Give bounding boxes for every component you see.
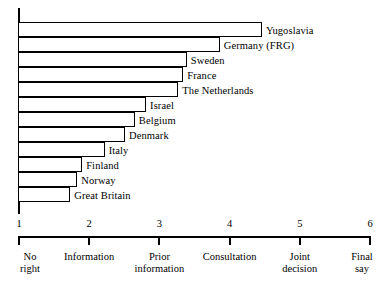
x-axis-caption-line1: Consultation bbox=[203, 251, 257, 262]
bar-row: Finland bbox=[19, 157, 242, 172]
bar-label: France bbox=[183, 69, 216, 80]
plot-area: Yugoslavia Germany (FRG) Sweden France T… bbox=[0, 0, 387, 215]
bar-label: Israel bbox=[146, 99, 174, 110]
x-axis-caption-line1: Prior bbox=[149, 251, 170, 262]
bar-row: Italy bbox=[19, 142, 265, 157]
x-axis-caption-line2: information bbox=[135, 263, 185, 275]
bar-row: Sweden bbox=[19, 52, 347, 67]
x-axis-caption: Consultation bbox=[203, 251, 257, 263]
bar-rect bbox=[19, 157, 82, 172]
bar-rect bbox=[19, 142, 105, 157]
x-tick bbox=[158, 236, 160, 245]
x-axis-caption-line2: say bbox=[351, 263, 373, 275]
x-tick-label: 2 bbox=[87, 218, 92, 229]
x-tick bbox=[299, 236, 301, 245]
x-axis-caption-line1: Final bbox=[351, 251, 373, 262]
bar-chart: Yugoslavia Germany (FRG) Sweden France T… bbox=[0, 0, 387, 286]
x-axis-caption-line2: decision bbox=[282, 263, 317, 275]
bar-label: Belgium bbox=[135, 114, 176, 125]
x-axis-caption-line1: Joint bbox=[290, 251, 310, 262]
bar-rect bbox=[19, 97, 146, 112]
x-axis-caption: Joint decision bbox=[282, 251, 317, 275]
bar-row: France bbox=[19, 67, 343, 82]
bar-rect bbox=[19, 172, 77, 187]
bar-rect bbox=[19, 37, 220, 52]
bar-label: Finland bbox=[82, 159, 119, 170]
bar-row: Belgium bbox=[19, 112, 295, 127]
x-tick-label: 1 bbox=[16, 218, 21, 229]
bar-label: Great Britain bbox=[70, 189, 130, 200]
x-tick bbox=[369, 236, 371, 245]
bar-label: Germany (FRG) bbox=[220, 39, 294, 50]
x-axis-caption: Information bbox=[64, 251, 114, 263]
x-axis-caption-line1: No bbox=[24, 251, 37, 262]
bar-label: The Netherlands bbox=[178, 84, 253, 95]
x-axis-caption: Final say bbox=[351, 251, 373, 275]
bar-label: Denmark bbox=[125, 129, 169, 140]
x-axis-caption-line1: Information bbox=[64, 251, 114, 262]
bar-label: Sweden bbox=[187, 54, 225, 65]
bar-row: Yugoslavia bbox=[19, 22, 387, 37]
bar-label: Italy bbox=[105, 144, 129, 155]
x-tick bbox=[229, 236, 231, 245]
bar-rect bbox=[19, 112, 135, 127]
bar-row: Norway bbox=[19, 172, 237, 187]
bar-row: The Netherlands bbox=[19, 82, 338, 97]
x-tick bbox=[18, 236, 20, 245]
x-axis-caption-line2: right bbox=[20, 263, 40, 275]
bar-rect bbox=[19, 127, 125, 142]
x-axis-caption: No right bbox=[20, 251, 40, 275]
bar-label: Yugoslavia bbox=[262, 24, 314, 35]
bar-row: Israel bbox=[19, 97, 306, 112]
bar-row: Denmark bbox=[19, 127, 285, 142]
x-axis-caption: Prior information bbox=[135, 251, 185, 275]
bar-rect bbox=[19, 187, 70, 202]
x-tick-label: 3 bbox=[157, 218, 162, 229]
bar-rect bbox=[19, 82, 178, 97]
bar-rect bbox=[19, 22, 262, 37]
bar-rect bbox=[19, 52, 187, 67]
x-tick-label: 4 bbox=[227, 218, 232, 229]
x-axis-line bbox=[18, 236, 371, 238]
bar-rect bbox=[19, 67, 183, 82]
bar-row: Great Britain bbox=[19, 187, 230, 202]
bar-label: Norway bbox=[77, 174, 115, 185]
x-axis: 1 No right 2 Information 3 Prior informa… bbox=[0, 215, 387, 286]
x-tick-label: 5 bbox=[297, 218, 302, 229]
x-tick-label: 6 bbox=[367, 218, 372, 229]
bar-row: Germany (FRG) bbox=[19, 37, 380, 52]
x-tick bbox=[88, 236, 90, 245]
